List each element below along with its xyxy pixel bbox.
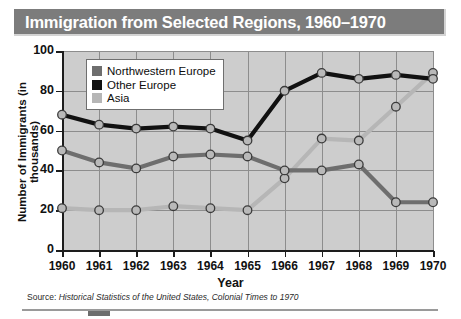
- data-point: [355, 160, 364, 169]
- data-point: [95, 120, 104, 129]
- data-point: [280, 87, 289, 96]
- legend-swatch-icon: [92, 66, 102, 76]
- chart-figure: Immigration from Selected Regions, 1960–…: [0, 0, 461, 319]
- data-point: [317, 134, 326, 143]
- data-point: [206, 150, 215, 159]
- source-note: Source: Historical Statistics of the Uni…: [27, 292, 299, 302]
- data-point: [392, 71, 401, 80]
- data-series-layer: [0, 0, 461, 319]
- data-point: [429, 198, 438, 207]
- data-point: [206, 204, 215, 213]
- data-point: [392, 102, 401, 111]
- data-point: [243, 152, 252, 161]
- data-point: [243, 136, 252, 145]
- data-point: [58, 110, 67, 119]
- data-point: [355, 136, 364, 145]
- data-point: [169, 152, 178, 161]
- legend-item: Northwestern Europe: [92, 65, 216, 78]
- series-northwestern-europe: [58, 146, 438, 206]
- legend-label: Other Europe: [107, 79, 176, 91]
- data-point: [132, 206, 141, 215]
- legend-item: Asia: [92, 92, 216, 105]
- legend-swatch-icon: [92, 80, 102, 90]
- legend-swatch-icon: [92, 93, 102, 103]
- data-point: [169, 202, 178, 211]
- data-point: [317, 69, 326, 78]
- source-citation: Historical Statistics of the United Stat…: [59, 292, 299, 302]
- data-point: [58, 204, 67, 213]
- data-point: [317, 166, 326, 175]
- data-point: [243, 206, 252, 215]
- data-point: [95, 158, 104, 167]
- legend-item: Other Europe: [92, 78, 216, 91]
- legend-label: Northwestern Europe: [107, 65, 216, 77]
- bottom-tab-marker: [88, 311, 110, 316]
- data-point: [132, 164, 141, 173]
- source-prefix: Source:: [27, 292, 59, 302]
- data-point: [95, 206, 104, 215]
- data-point: [169, 122, 178, 131]
- data-point: [206, 124, 215, 133]
- legend-label: Asia: [107, 92, 129, 104]
- data-point: [355, 75, 364, 84]
- data-point: [280, 166, 289, 175]
- bottom-divider: [22, 309, 438, 311]
- data-point: [280, 174, 289, 183]
- chart-legend: Northwestern EuropeOther EuropeAsia: [86, 59, 224, 110]
- data-point: [392, 198, 401, 207]
- data-point: [132, 124, 141, 133]
- data-point: [429, 75, 438, 84]
- data-point: [58, 146, 67, 155]
